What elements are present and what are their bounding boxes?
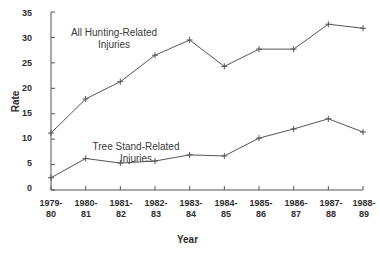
data-point-marker — [187, 152, 193, 158]
x-tick-marks — [51, 186, 363, 190]
y-tick-marks — [51, 12, 55, 190]
data-point-marker — [256, 135, 262, 141]
data-point-marker — [291, 126, 297, 132]
data-point-marker — [360, 25, 366, 31]
data-series — [48, 21, 366, 181]
data-point-marker — [360, 129, 366, 135]
series-hunting — [48, 21, 366, 136]
data-point-marker — [117, 160, 123, 166]
series-line — [51, 24, 363, 133]
data-point-marker — [221, 153, 227, 159]
data-point-marker — [256, 46, 262, 52]
data-point-marker — [152, 158, 158, 164]
axes — [51, 12, 363, 190]
data-point-marker — [325, 116, 331, 122]
series-tree-stand — [48, 116, 366, 181]
series-line — [51, 119, 363, 178]
data-point-marker — [83, 155, 89, 161]
data-point-marker — [48, 175, 54, 181]
